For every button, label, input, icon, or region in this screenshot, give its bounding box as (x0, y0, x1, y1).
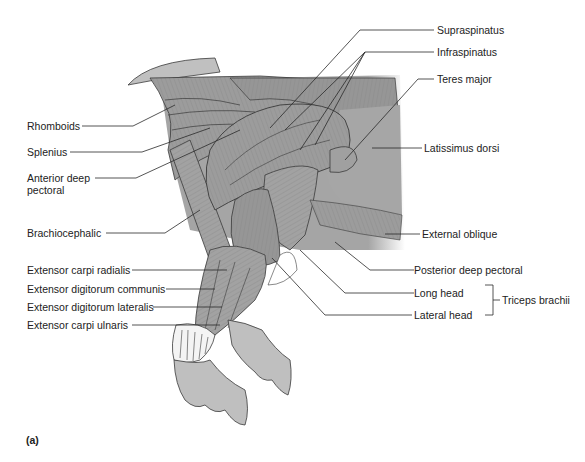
label-infraspinatus: Infraspinatus (437, 46, 497, 58)
label-rhomboids: Rhomboids (27, 120, 80, 132)
carpal-tendons (172, 324, 215, 363)
label-extensor-digitorum-communis: Extensor digitorum communis (27, 283, 165, 295)
panel-letter: (a) (26, 434, 39, 446)
label-triceps-brachii: Triceps brachii (502, 294, 570, 306)
label-external-oblique: External oblique (422, 228, 497, 240)
label-posterior-deep-pectoral: Posterior deep pectoral (414, 264, 523, 276)
label-extensor-carpi-radialis: Extensor carpi radialis (27, 264, 130, 276)
label-long-head: Long head (414, 287, 464, 299)
label-latissimus-dorsi: Latissimus dorsi (424, 142, 499, 154)
label-extensor-carpi-ulnaris: Extensor carpi ulnaris (27, 319, 128, 331)
label-anterior-deep-pectoral-line2: pectoral (27, 184, 64, 196)
forepaw-right (228, 320, 291, 395)
forepaw-left (174, 360, 248, 425)
label-lateral-head: Lateral head (414, 309, 472, 321)
label-splenius: Splenius (27, 146, 67, 158)
label-anterior-deep-pectoral-line1: Anterior deep (27, 172, 90, 184)
label-teres-major: Teres major (437, 73, 492, 85)
label-brachiocephalic: Brachiocephalic (27, 227, 101, 239)
label-supraspinatus: Supraspinatus (437, 24, 504, 36)
label-extensor-digitorum-lateralis: Extensor digitorum lateralis (27, 301, 154, 313)
